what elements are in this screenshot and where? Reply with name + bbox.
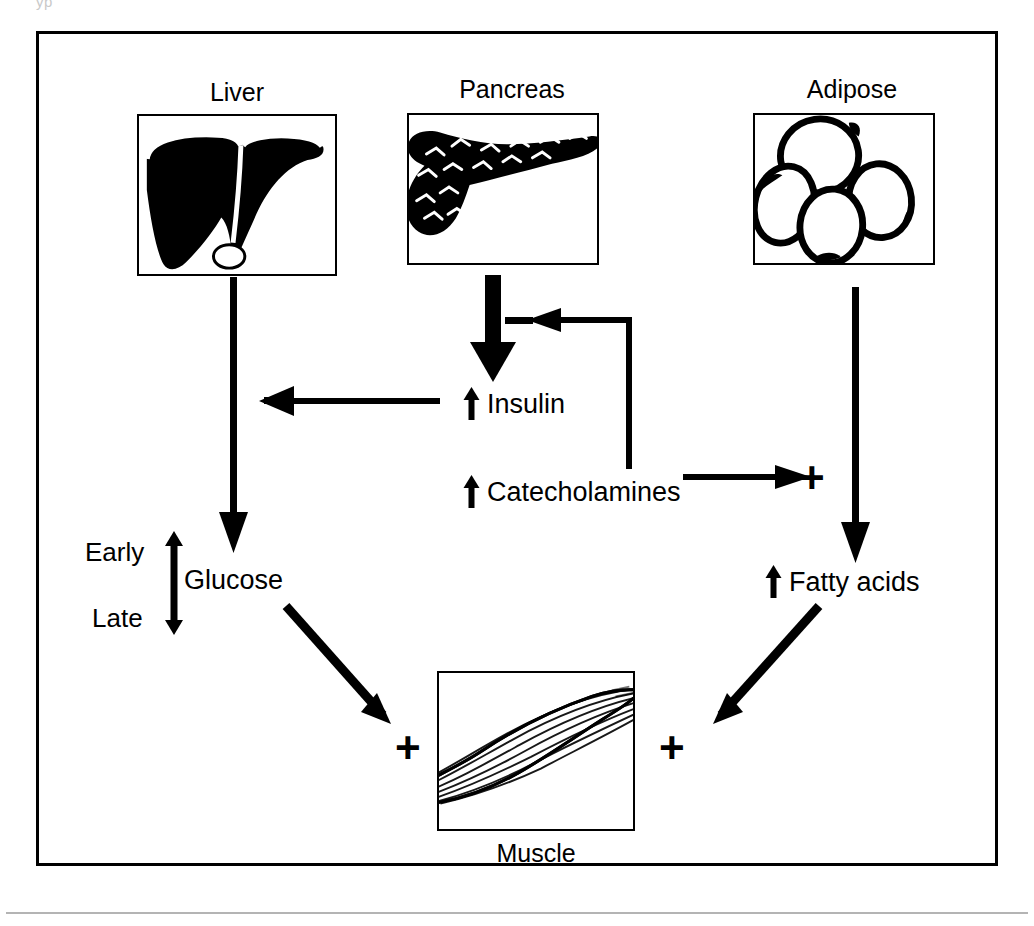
page-divider-rule — [6, 912, 1028, 914]
organ-label-pancreas: Pancreas — [401, 75, 623, 103]
sidenote-label-late: Late — [92, 603, 143, 633]
sidenote-label-early: Early — [85, 537, 144, 567]
connector-glucose-to-muscle — [286, 606, 391, 724]
connector-fatty-acids-to-muscle — [713, 606, 819, 724]
figure-frame: Liver Pancreas — [36, 31, 998, 866]
organ-label-liver: Liver — [131, 78, 343, 106]
figure-page: yp — [0, 0, 1034, 926]
organ-image-box-liver — [137, 114, 337, 276]
node-insulin: Insulin — [463, 387, 565, 420]
organ-label-muscle: Muscle — [437, 839, 635, 867]
status-badge-minus-liver — [264, 397, 292, 404]
sidenote-early: Early — [85, 538, 144, 566]
connector-liver-to-glucose — [219, 277, 248, 553]
status-badge-plus-muscle-left: + — [395, 726, 421, 770]
organ-panel-muscle: Muscle — [437, 671, 635, 867]
pancreas-silhouette-icon — [407, 115, 599, 263]
node-label-fatty-acids: Fatty acids — [789, 567, 920, 597]
node-label-glucose: Glucose — [184, 565, 283, 595]
sidenote-late: Late — [92, 604, 143, 632]
down-arrow-icon-late — [165, 620, 183, 635]
organ-panel-adipose: Adipose — [747, 75, 957, 280]
organ-image-box-pancreas — [407, 113, 599, 265]
organ-panel-pancreas: Pancreas — [401, 75, 623, 280]
status-badge-minus-pancreas — [505, 317, 533, 324]
page-top-text-remnant: yp — [36, 0, 53, 10]
node-label-insulin: Insulin — [487, 389, 565, 419]
up-arrow-icon-insulin — [463, 387, 480, 420]
node-fatty-acids: Fatty acids — [765, 565, 920, 598]
organ-panel-liver: Liver — [131, 78, 343, 278]
status-badge-plus-adipose: + — [799, 456, 825, 500]
early-late-double-arrow — [164, 531, 184, 639]
node-catecholamines: Catecholamines — [463, 475, 681, 508]
organ-image-box-adipose — [753, 113, 935, 265]
up-arrow-icon-fatty-acids — [765, 565, 782, 598]
node-glucose: Glucose — [184, 565, 283, 595]
up-arrow-icon-catecholamines — [463, 475, 480, 508]
muscle-striated-icon — [437, 673, 635, 829]
organ-label-adipose: Adipose — [747, 75, 957, 103]
up-arrow-icon-early — [165, 531, 183, 546]
status-badge-plus-muscle-right: + — [659, 726, 685, 770]
adipose-cells-icon — [755, 115, 933, 263]
node-label-catecholamines: Catecholamines — [487, 477, 681, 507]
connector-catecholamines-stimulate-adipose — [683, 465, 811, 489]
liver-silhouette-icon — [139, 116, 335, 274]
connector-adipose-to-fatty-acids — [841, 287, 870, 563]
connector-pancreas-to-insulin — [470, 275, 516, 382]
organ-image-box-muscle — [437, 671, 635, 831]
